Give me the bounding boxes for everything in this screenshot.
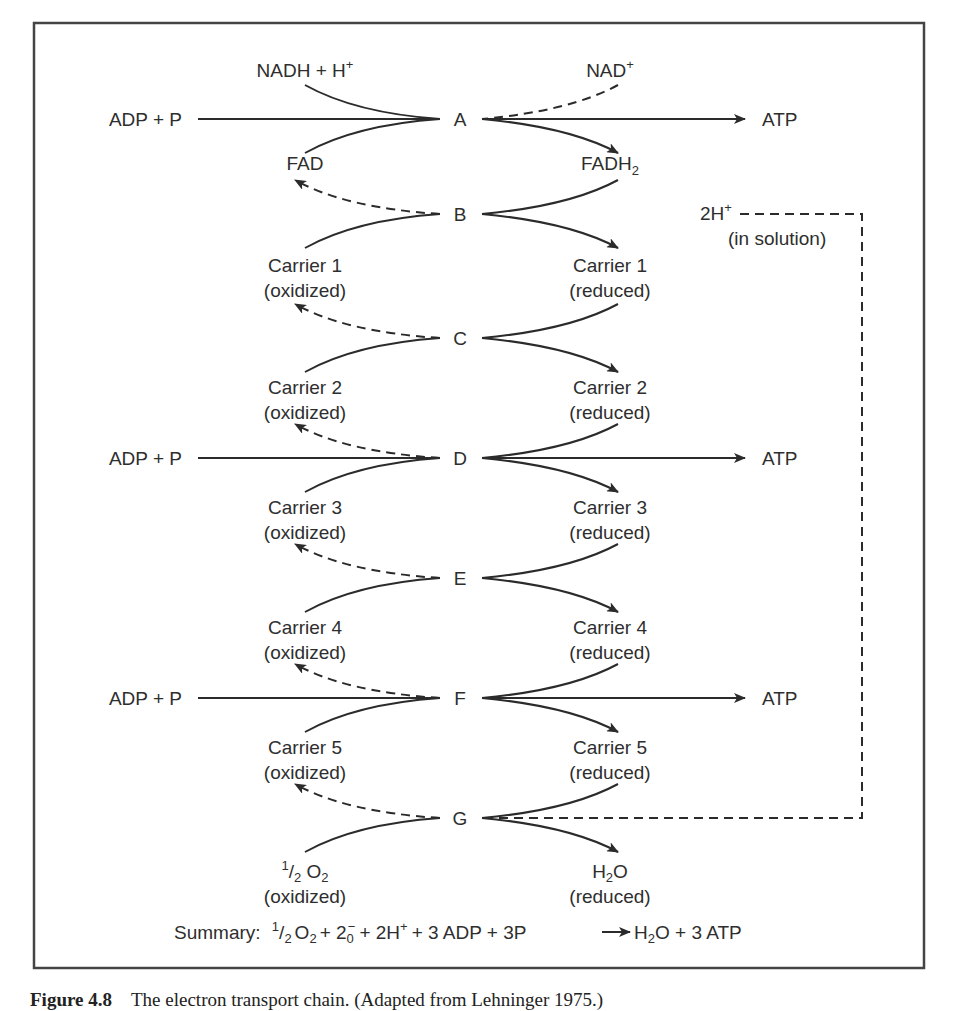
left-carrier-label: Carrier 5 [268, 737, 342, 758]
right-carrier-label: Carrier 1 [573, 255, 647, 276]
right-carrier-state: (reduced) [569, 280, 650, 301]
left-carrier-state: (oxidized) [264, 522, 346, 543]
nad-label: NAD+ [586, 57, 634, 81]
node-G: G [453, 808, 468, 829]
right-carrier-label: Carrier 2 [573, 377, 647, 398]
figure-caption: Figure 4.8 The electron transport chain.… [30, 989, 603, 1011]
left-carrier-label: Carrier 1 [268, 255, 342, 276]
figure-frame [34, 23, 924, 968]
node-E: E [454, 568, 467, 589]
oxidized-carrier-line [305, 458, 440, 492]
oxygen-label: 1/2 O2 [281, 858, 328, 885]
water-state: (reduced) [569, 886, 650, 907]
reduce-arrow [482, 458, 618, 492]
right-carrier-state: (reduced) [569, 402, 650, 423]
oxidized-carrier-line [305, 698, 440, 732]
oxidize-arrow [295, 544, 440, 578]
atp-label: ATP [762, 688, 798, 709]
reduced-carrier-line [482, 180, 618, 214]
right-carrier-label: Carrier 5 [573, 737, 647, 758]
water-arrow [482, 818, 618, 852]
reduced-carrier-line [482, 304, 618, 338]
node-F: F [454, 688, 466, 709]
node-C: C [453, 328, 467, 349]
reduce-arrow [482, 698, 618, 732]
proton-path: 2H+ (in solution) [485, 200, 862, 818]
reduced-carrier-line [482, 664, 618, 698]
left-carrier-state: (oxidized) [264, 402, 346, 423]
right-carrier-label: FADH2 [581, 153, 639, 178]
node-B: B [454, 204, 467, 225]
atp-label: ATP [762, 109, 798, 130]
atp-label: ATP [762, 448, 798, 469]
left-carrier-label: Carrier 3 [268, 497, 342, 518]
oxidize-arrow [295, 664, 440, 698]
proton-note: (in solution) [728, 228, 826, 249]
oxidized-carrier-line [305, 578, 440, 612]
oxidize-arrow [295, 304, 440, 338]
reduce-arrow [482, 338, 618, 372]
oxidize-arrow [295, 424, 440, 458]
oxidize-arrow [295, 180, 440, 214]
right-carrier-label: Carrier 4 [573, 617, 647, 638]
nad-dashed-line [482, 85, 618, 119]
right-carrier-state: (reduced) [569, 642, 650, 663]
right-carrier-label: Carrier 3 [573, 497, 647, 518]
left-carrier-state: (oxidized) [264, 280, 346, 301]
node-D: D [453, 448, 467, 469]
oxygen-line [305, 818, 440, 852]
reduced-carrier-line [482, 544, 618, 578]
oxidize-arrow [295, 784, 440, 818]
reduce-arrow [482, 214, 618, 248]
proton-label: 2H+ [700, 200, 732, 224]
proton-dashed-line [485, 214, 862, 818]
adp-label: ADP + P [109, 688, 182, 709]
oxidized-carrier-line [305, 119, 440, 153]
left-carrier-label: FAD [287, 153, 324, 174]
reaction-labels: ABCDEFGFADFADH2Carrier 1(oxidized)Carrie… [109, 57, 798, 907]
reduce-arrow [482, 578, 618, 612]
oxidized-carrier-line [305, 214, 440, 248]
caption-text: The electron transport chain. (Adapted f… [131, 989, 603, 1010]
summary-equation: Summary: 1/2O2+ 20−+ 2H++ 3 ADP + 3P [174, 919, 526, 946]
left-carrier-state: (oxidized) [264, 762, 346, 783]
left-carrier-state: (oxidized) [264, 642, 346, 663]
adp-label: ADP + P [109, 448, 182, 469]
oxygen-state: (oxidized) [264, 886, 346, 907]
right-carrier-state: (reduced) [569, 522, 650, 543]
nadh-label: NADH + H+ [257, 57, 354, 81]
oxidized-carrier-line [305, 338, 440, 372]
water-label: H2O [592, 861, 628, 885]
nadh-line [305, 85, 440, 119]
summary-products: H2O + 3 ATP [634, 922, 742, 946]
reduced-carrier-line [482, 784, 618, 818]
left-carrier-label: Carrier 4 [268, 617, 342, 638]
caption-label: Figure 4.8 [30, 989, 112, 1010]
reduce-arrow [482, 119, 618, 153]
reduced-carrier-line [482, 424, 618, 458]
right-carrier-state: (reduced) [569, 762, 650, 783]
left-carrier-label: Carrier 2 [268, 377, 342, 398]
adp-label: ADP + P [109, 109, 182, 130]
node-A: A [454, 109, 467, 130]
